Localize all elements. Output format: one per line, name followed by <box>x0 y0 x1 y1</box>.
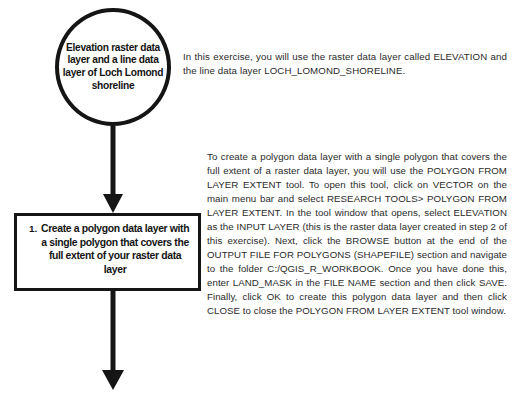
intro-paragraph: In this exercise, you will use the raste… <box>183 50 507 77</box>
diagram-canvas: Elevation raster data layer and a line d… <box>0 0 522 404</box>
instructions-paragraph: To create a polygon data layer with a si… <box>207 150 507 318</box>
flow-node-start-oval: Elevation raster data layer and a line d… <box>55 8 171 126</box>
flow-node-start-label: Elevation raster data layer and a line d… <box>61 42 165 92</box>
arrow-oval-to-box <box>103 126 123 213</box>
flow-node-step1-label: Create a polygon data layer with a singl… <box>39 222 191 276</box>
arrow-box-to-next <box>102 291 124 390</box>
flow-node-step1-number: 1. <box>24 222 39 236</box>
flow-node-step1-box: 1. Create a polygon data layer with a si… <box>14 213 201 291</box>
